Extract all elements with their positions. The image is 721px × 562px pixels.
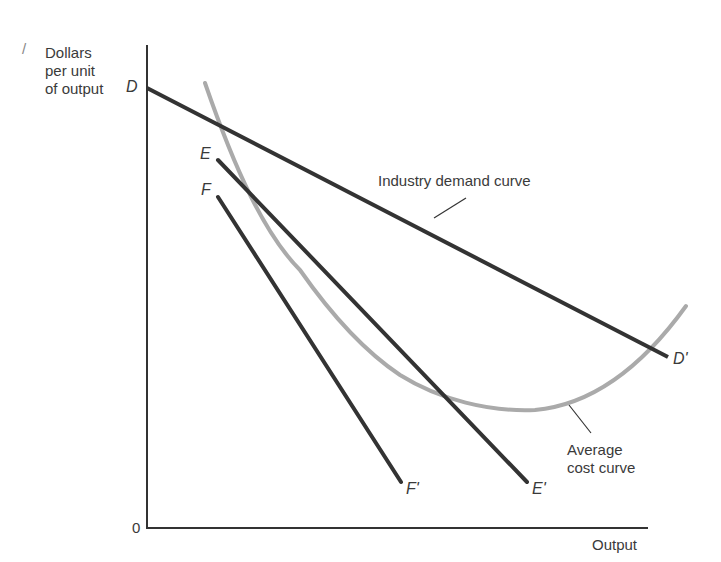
label-d-prime: D' <box>673 350 688 368</box>
x-axis-label: Output <box>592 536 637 554</box>
demand-leader-line <box>434 198 466 218</box>
y-axis-label: Dollars per unit of output <box>45 44 103 98</box>
cost-annotation-line: cost curve <box>567 459 635 477</box>
stray-mark: / <box>22 40 26 58</box>
label-e-prime: E' <box>532 480 546 498</box>
label-d: D <box>126 78 138 96</box>
y-axis-label-line: Dollars <box>45 44 103 62</box>
y-axis-label-line: per unit <box>45 62 103 80</box>
diagram-canvas <box>0 0 721 562</box>
label-f: F <box>201 181 211 199</box>
y-axis-label-line: of output <box>45 80 103 98</box>
line-e <box>218 160 527 482</box>
cost-leader-line <box>569 405 591 433</box>
label-f-prime: F' <box>406 480 419 498</box>
origin-label: 0 <box>132 519 140 537</box>
demand-curve-annotation: Industry demand curve <box>378 172 531 190</box>
cost-curve-annotation: Average cost curve <box>567 441 635 477</box>
line-f <box>218 197 401 482</box>
label-e: E <box>200 145 211 163</box>
average-cost-curve <box>205 83 686 410</box>
cost-annotation-line: Average <box>567 441 635 459</box>
industry-demand-curve <box>147 88 668 357</box>
